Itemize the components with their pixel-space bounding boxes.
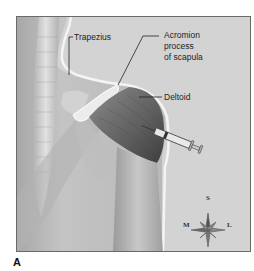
label-acromion-line2: process	[164, 42, 194, 52]
label-trapezius: Trapezius	[74, 33, 111, 43]
label-deltoid: Deltoid	[164, 93, 190, 103]
compass-lateral: L	[227, 221, 232, 229]
shoulder-anatomy-drawing	[17, 17, 251, 252]
label-acromion-line1: Acromion	[164, 31, 200, 41]
panel-label: A	[13, 256, 21, 268]
compass-superior: S	[206, 194, 210, 202]
label-acromion-line3: of scapula	[164, 53, 203, 63]
compass-medial: M	[183, 221, 190, 229]
anatomy-illustration: Trapezius Acromion process of scapula De…	[16, 16, 251, 252]
compass-inferior: I	[207, 249, 210, 252]
